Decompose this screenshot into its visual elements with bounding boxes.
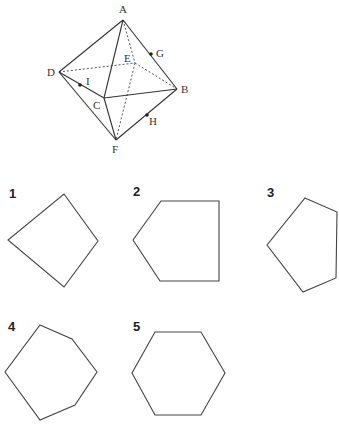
label-B: B	[181, 83, 188, 95]
label-H: H	[149, 115, 157, 127]
option-number: 1	[9, 186, 16, 201]
option-5[interactable]: 5	[132, 319, 225, 415]
option-number: 2	[133, 184, 140, 199]
point-G	[149, 52, 153, 56]
quadrilateral-shape	[8, 194, 98, 287]
edge-EB	[135, 63, 177, 89]
option-number: 5	[133, 319, 140, 334]
option-1[interactable]: 1	[8, 186, 98, 287]
hexagon-shape	[5, 325, 97, 420]
diagram-canvas: A B C D E F G H I 1 2 3 4 5	[0, 0, 339, 425]
option-3[interactable]: 3	[267, 185, 337, 292]
octahedron: A B C D E F G H I	[47, 3, 188, 155]
edge-DE	[59, 63, 135, 72]
label-G: G	[156, 47, 164, 59]
label-A: A	[119, 3, 127, 15]
edge-EF	[116, 63, 135, 140]
pentagon-shape	[267, 198, 337, 292]
label-C: C	[93, 99, 100, 111]
label-I: I	[86, 75, 90, 87]
option-2[interactable]: 2	[133, 184, 219, 281]
option-number: 4	[8, 319, 16, 334]
edge-AC	[104, 20, 123, 98]
option-4[interactable]: 4	[5, 319, 97, 420]
edge-AD	[59, 20, 123, 72]
pentagon-shape	[133, 201, 219, 281]
regular-hexagon-shape	[132, 332, 225, 415]
label-D: D	[47, 66, 55, 78]
label-E: E	[124, 52, 131, 64]
edge-CF	[104, 98, 116, 140]
option-number: 3	[267, 185, 274, 200]
edge-CB	[104, 89, 177, 98]
label-F: F	[112, 143, 118, 155]
point-I	[78, 83, 82, 87]
